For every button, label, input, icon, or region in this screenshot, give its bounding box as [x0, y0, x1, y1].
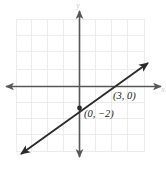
figure-background: [0, 0, 166, 169]
point-label-0-neg2: (0, −2): [84, 108, 114, 120]
coordinate-plane-figure: y x (3, 0) (0, −2): [0, 0, 166, 169]
point-marker-y-intercept: [77, 106, 82, 111]
graph-canvas: y x (3, 0) (0, −2): [0, 0, 166, 169]
point-label-3-0: (3, 0): [113, 90, 136, 102]
x-axis-label: x: [160, 85, 165, 94]
y-axis-label: y: [75, 1, 80, 10]
